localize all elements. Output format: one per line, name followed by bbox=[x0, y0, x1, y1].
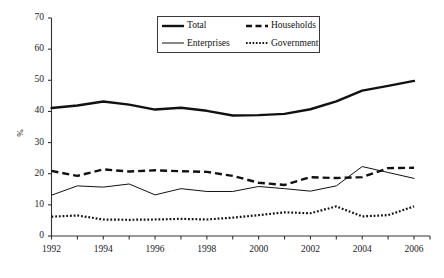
legend-item-enterprises: Enterprises bbox=[158, 38, 242, 48]
dashed-thick-swatch-icon bbox=[246, 21, 268, 31]
y-axis-tick-label: 20 bbox=[22, 169, 44, 179]
y-axis-tick-label: 40 bbox=[22, 107, 44, 117]
y-axis-tick-label: 10 bbox=[22, 200, 44, 210]
x-axis-tick-label: 2006 bbox=[405, 245, 424, 255]
x-axis-tick-label: 2004 bbox=[353, 245, 372, 255]
legend-item-total: Total bbox=[158, 21, 242, 31]
legend-label-total: Total bbox=[187, 21, 206, 31]
x-axis-tick-label: 1998 bbox=[197, 245, 216, 255]
y-axis-tick-label: 70 bbox=[22, 13, 44, 23]
data-series-group bbox=[52, 81, 415, 220]
solid-thin-swatch-icon bbox=[162, 38, 184, 48]
series-line-total bbox=[52, 81, 415, 116]
y-axis-tick-label: 0 bbox=[22, 231, 44, 241]
x-axis-tick-label: 1992 bbox=[42, 245, 61, 255]
chart-legend: Total Households Enterprises Government bbox=[157, 16, 320, 53]
y-axis-tick-label: 60 bbox=[22, 44, 44, 54]
legend-item-households: Households bbox=[242, 21, 321, 31]
y-axis-tick-label: 50 bbox=[22, 76, 44, 86]
series-line-government bbox=[52, 206, 415, 219]
x-axis-tick-label: 1996 bbox=[146, 245, 165, 255]
x-axis-tick-label: 2000 bbox=[249, 245, 268, 255]
legend-item-government: Government bbox=[242, 38, 321, 48]
x-axis-tick-label: 2002 bbox=[301, 245, 320, 255]
solid-thick-swatch-icon bbox=[162, 21, 184, 31]
series-line-enterprises bbox=[52, 167, 415, 196]
legend-label-government: Government bbox=[271, 39, 319, 49]
dotted-swatch-icon bbox=[246, 38, 268, 48]
line-chart: % 010203040506070 1992199419961998200020… bbox=[0, 0, 444, 278]
y-axis-title: % bbox=[15, 129, 25, 137]
legend-label-enterprises: Enterprises bbox=[187, 39, 230, 49]
legend-label-households: Households bbox=[271, 21, 316, 31]
x-axis-tick-label: 1994 bbox=[94, 245, 113, 255]
series-line-households bbox=[52, 168, 415, 185]
y-axis-tick-label: 30 bbox=[22, 138, 44, 148]
